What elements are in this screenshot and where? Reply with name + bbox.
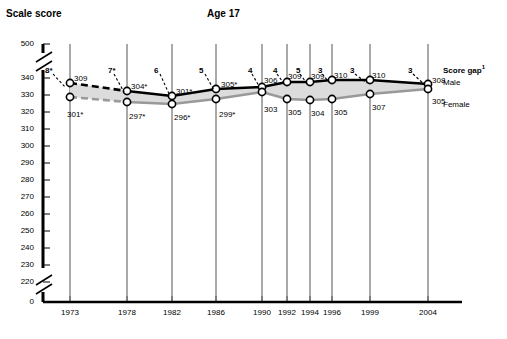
legend-heading: Score gap1 xyxy=(443,64,485,75)
y-tick-300: 300 xyxy=(8,141,34,150)
x-tick-1978: 1978 xyxy=(107,308,147,317)
male-value-1986: 305* xyxy=(221,80,237,89)
female-value-1978: 297* xyxy=(129,112,145,121)
female-value-1990: 303 xyxy=(264,105,277,114)
y-tick-260: 260 xyxy=(8,209,34,218)
female-value-1992: 305 xyxy=(288,108,301,117)
female-value-1973: 301* xyxy=(67,110,83,119)
gap-label-2004: 3 xyxy=(408,66,412,75)
legend-item-female: Female xyxy=(443,100,470,109)
female-value-1999: 307 xyxy=(372,103,385,112)
y-tick-280: 280 xyxy=(8,175,34,184)
x-tick-1996: 1996 xyxy=(312,308,352,317)
x-tick-1986: 1986 xyxy=(196,308,236,317)
chart-root: Scale score Age 17 xyxy=(0,0,507,339)
x-axis xyxy=(43,296,462,302)
male-value-1999: 310 xyxy=(372,71,385,80)
y-tick-290: 290 xyxy=(8,158,34,167)
y-tick-250: 250 xyxy=(8,226,34,235)
y-tick-310: 310 xyxy=(8,124,34,133)
y-tick-220: 220 xyxy=(8,277,34,286)
legend-item-male: Male xyxy=(443,78,460,87)
x-tick-1973: 1973 xyxy=(50,308,90,317)
gap-label-1996: 3 xyxy=(318,66,322,75)
x-tick-1999: 1999 xyxy=(350,308,390,317)
gap-label-1990: 4 xyxy=(248,66,252,75)
gap-label-1994: 5 xyxy=(296,66,300,75)
y-tick-270: 270 xyxy=(8,192,34,201)
legend-heading-text: Score gap xyxy=(443,66,482,75)
y-tick-500: 500 xyxy=(8,39,34,48)
y-tick-340: 340 xyxy=(8,73,34,82)
gap-label-1978: 7* xyxy=(108,66,116,75)
male-value-1978: 304* xyxy=(131,82,147,91)
male-value-1990: 306 xyxy=(264,76,277,85)
x-tick-1982: 1982 xyxy=(152,308,192,317)
chart-canvas xyxy=(0,0,507,339)
female-value-1982: 296* xyxy=(174,113,190,122)
gap-label-1982: 6 xyxy=(154,66,158,75)
y-tick-330: 330 xyxy=(8,90,34,99)
y-tick-230: 230 xyxy=(8,260,34,269)
female-value-1996: 305 xyxy=(334,108,347,117)
male-value-1982: 301* xyxy=(176,87,192,96)
x-tick-2004: 2004 xyxy=(408,308,448,317)
gap-label-1986: 5 xyxy=(199,66,203,75)
y-tick-320: 320 xyxy=(8,107,34,116)
legend-heading-footnote-marker: 1 xyxy=(482,64,485,70)
female-value-1994: 304 xyxy=(311,109,324,118)
male-value-1996: 310 xyxy=(334,71,347,80)
male-value-1973: 309 xyxy=(74,74,87,83)
gap-label-1992: 4 xyxy=(273,66,277,75)
female-value-1986: 299* xyxy=(219,110,235,119)
y-axis xyxy=(36,44,52,302)
y-tick-0: 0 xyxy=(8,297,34,306)
gap-label-1999: 3 xyxy=(350,66,354,75)
y-tick-240: 240 xyxy=(8,243,34,252)
gap-label-1973: 8* xyxy=(45,66,53,75)
